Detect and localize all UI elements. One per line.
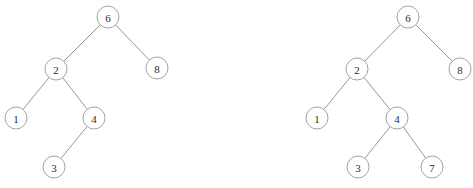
tree-node-label: 3 xyxy=(355,162,361,174)
tree-edge xyxy=(364,78,390,110)
tree-node: 7 xyxy=(421,156,443,178)
right-tree: 6281437 xyxy=(306,6,471,178)
tree-node: 4 xyxy=(386,107,408,129)
tree-node: 6 xyxy=(397,6,419,28)
tree-edge xyxy=(324,78,350,110)
left-tree-edges xyxy=(23,25,149,159)
tree-node: 8 xyxy=(449,58,471,80)
tree-node: 1 xyxy=(5,107,27,129)
tree-node-label: 2 xyxy=(354,64,360,76)
tree-node: 3 xyxy=(43,156,65,178)
tree-node: 2 xyxy=(346,58,368,80)
tree-node-label: 8 xyxy=(154,63,160,75)
tree-edge xyxy=(63,78,88,110)
tree-node-label: 2 xyxy=(53,64,59,76)
tree-edge xyxy=(23,78,49,110)
tree-node: 8 xyxy=(146,57,168,79)
tree-node-label: 7 xyxy=(429,162,435,174)
binary-tree-diagram: 6281436281437 xyxy=(0,0,473,188)
tree-edge xyxy=(416,25,452,61)
tree-edge xyxy=(64,25,100,61)
tree-node-label: 6 xyxy=(105,12,111,24)
tree-node: 2 xyxy=(45,58,67,80)
tree-node: 4 xyxy=(83,107,105,129)
tree-node-label: 4 xyxy=(394,113,400,125)
tree-node-label: 6 xyxy=(405,12,411,24)
tree-edge xyxy=(403,127,425,158)
tree-node-label: 8 xyxy=(457,64,463,76)
tree-node-label: 1 xyxy=(314,113,320,125)
tree-node: 1 xyxy=(306,107,328,129)
tree-edge xyxy=(365,25,401,61)
tree-diagram-canvas: 6281436281437 xyxy=(0,0,473,188)
tree-node-label: 1 xyxy=(13,113,19,125)
tree-node: 6 xyxy=(97,6,119,28)
tree-edge xyxy=(365,127,390,159)
left-tree: 628143 xyxy=(5,6,168,178)
tree-edge xyxy=(116,25,150,60)
tree-node-label: 4 xyxy=(91,113,97,125)
tree-node-label: 3 xyxy=(51,162,57,174)
tree-node: 3 xyxy=(347,156,369,178)
tree-edge xyxy=(61,127,87,159)
right-tree-edges xyxy=(324,25,452,159)
